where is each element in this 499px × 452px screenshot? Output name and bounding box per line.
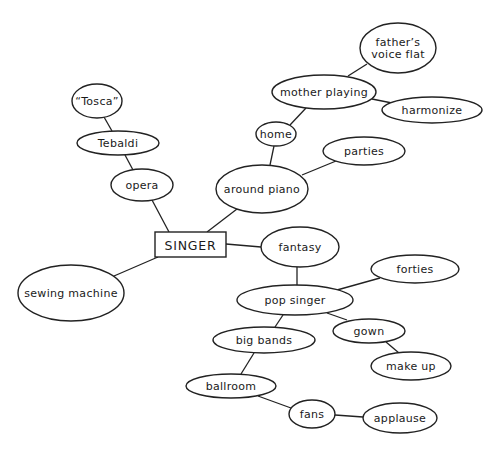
node-home: home — [256, 122, 296, 146]
node-label: applause — [374, 412, 426, 425]
node-label: pop singer — [264, 294, 325, 307]
node-label: opera — [125, 179, 158, 192]
node-label: fantasy — [279, 241, 322, 254]
root-label: SINGER — [164, 238, 216, 253]
edges-layer — [104, 64, 399, 417]
node-sewing-machine: sewing machine — [18, 265, 124, 321]
node-label: harmonize — [402, 104, 463, 117]
mind-map-diagram: SINGER “Tosca”Tebaldioperaaround pianoho… — [0, 0, 499, 452]
node-tebaldi: Tebaldi — [77, 131, 159, 155]
node-fathers-voice-flat: father’svoice flat — [360, 23, 436, 73]
edge-big-bands-to-ballroom — [241, 353, 254, 374]
node-label: ballroom — [206, 380, 257, 393]
node-applause: applause — [363, 403, 437, 433]
node-harmonize: harmonize — [382, 97, 482, 123]
edge-opera-to-tebaldi — [125, 155, 133, 170]
node-label: mother playing — [280, 86, 368, 99]
node-ballroom: ballroom — [186, 374, 276, 398]
edge-pop-singer-to-gown — [327, 313, 347, 320]
node-label: around piano — [224, 183, 300, 196]
node-label: sewing machine — [24, 287, 117, 300]
edge-around-piano-to-parties — [302, 161, 336, 175]
edge-around-piano-to-home — [270, 146, 274, 165]
edge-mother-playing-to-fathers-voice-flat — [348, 64, 367, 76]
node-gown: gown — [333, 319, 405, 343]
node-tosca: “Tosca” — [72, 84, 122, 118]
node-around-piano: around piano — [216, 165, 308, 213]
node-mother-playing: mother playing — [272, 75, 376, 109]
edge-home-to-mother-playing — [290, 108, 306, 125]
node-label: Tebaldi — [97, 137, 139, 150]
node-big-bands: big bands — [213, 327, 315, 353]
edge-singer-to-sewing-machine — [114, 257, 158, 276]
node-opera: opera — [111, 169, 173, 201]
node-label: home — [260, 128, 292, 141]
node-fantasy: fantasy — [261, 227, 339, 267]
edge-pop-singer-to-forties — [337, 278, 380, 290]
edge-singer-to-around-piano — [207, 209, 237, 232]
node-label: voice flat — [371, 48, 425, 61]
node-label: parties — [344, 145, 384, 158]
node-parties: parties — [323, 137, 405, 165]
edge-tebaldi-to-tosca — [104, 117, 112, 131]
node-forties: forties — [371, 255, 459, 283]
root-node-singer: SINGER — [155, 232, 226, 257]
node-label: “Tosca” — [75, 95, 119, 108]
node-fans: fans — [289, 400, 335, 428]
node-make-up: make up — [371, 352, 451, 380]
edge-pop-singer-to-big-bands — [275, 315, 283, 327]
edge-ballroom-to-fans — [258, 396, 291, 408]
node-label: big bands — [236, 334, 293, 347]
edge-mother-playing-to-harmonize — [372, 99, 392, 103]
node-label: forties — [396, 263, 433, 276]
node-label: make up — [386, 360, 436, 373]
node-pop-singer: pop singer — [237, 285, 353, 315]
edge-gown-to-make-up — [386, 342, 399, 353]
edge-fans-to-applause — [335, 415, 363, 417]
node-label: fans — [300, 408, 325, 421]
edge-singer-to-fantasy — [226, 244, 261, 247]
edge-singer-to-opera — [152, 200, 169, 232]
nodes-layer: SINGER “Tosca”Tebaldioperaaround pianoho… — [18, 23, 482, 433]
node-label: gown — [354, 325, 385, 338]
